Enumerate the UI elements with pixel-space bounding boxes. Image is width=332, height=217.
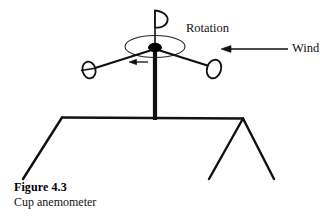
tripod-leg-right-front [209,119,243,180]
figure-caption-block: Figure 4.3 Cup anemometer [14,180,214,211]
figure-caption-text: Cup anemometer [14,195,214,211]
tripod-crossbeam [62,118,243,119]
rotation-label: Rotation [186,22,229,35]
wind-label: Wind [292,42,319,55]
rotor-hub [149,43,162,51]
tripod-legs [23,118,274,180]
wind-arrow [221,46,288,53]
figure-number: Figure 4.3 [14,180,214,195]
rotor-arm-left [92,49,155,69]
wind-arrow-head [221,46,231,53]
rotation-arrow [129,59,148,64]
rotor-arms [92,49,209,69]
rotation-arrow-head [129,59,137,64]
cup-left [81,60,98,80]
cup-right [204,58,223,80]
cup-top [155,11,168,28]
tripod-leg-left [23,118,62,180]
figure-page: Rotation Wind Figure 4.3 Cup anemometer [0,0,332,217]
tripod-leg-right-back [243,119,274,180]
